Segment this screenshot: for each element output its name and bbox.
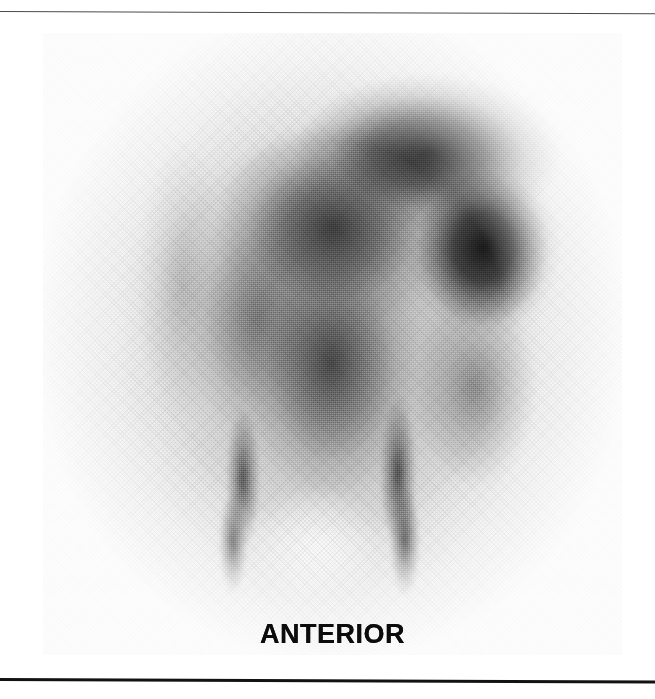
orientation-label: ANTERIOR	[43, 619, 622, 650]
scintigram-panel: ANTERIOR	[43, 33, 622, 655]
figure-bottom-rule	[0, 678, 655, 683]
radiotracer-activity-map	[43, 33, 622, 655]
figure-top-rule	[0, 11, 655, 15]
